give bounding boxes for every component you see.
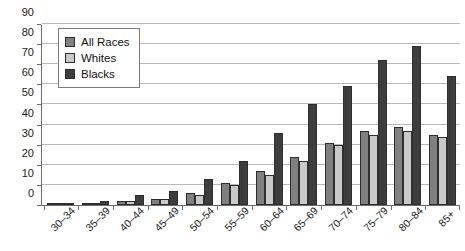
x-label-cell: 35–39 [77,206,112,251]
legend-item: Whites [65,50,130,66]
legend-swatch-icon [65,53,75,63]
bar-blacks [135,195,144,205]
bar-whites [299,161,308,205]
bar-blacks [239,161,248,205]
bar-all-races [47,203,56,205]
bar-whites [369,135,378,205]
gridline-90 [42,23,460,24]
x-label-cell: 40–44 [112,206,147,251]
x-label-cell: 50–54 [182,206,217,251]
y-tick-label-70: 70 [22,46,34,58]
bar-whites [126,201,135,205]
x-axis-tick-label: 75–79 [361,204,390,233]
x-axis-tick-label: 85+ [435,208,456,229]
x-axis-tick-label: 50–54 [187,204,216,233]
y-tick-label-0: 0 [28,187,34,199]
y-tick-label-90: 90 [22,6,34,18]
bar-all-races [325,143,334,205]
bar-all-races [82,203,91,205]
bar-group [391,25,426,205]
x-label-cell: 55–59 [216,206,251,251]
x-label-cell: 85+ [425,206,460,251]
bar-all-races [360,131,369,205]
bar-group [148,25,183,205]
x-label-cell: 45–49 [147,206,182,251]
x-axis-tick-label: 70–74 [326,204,355,233]
legend-label: All Races [81,36,130,48]
bar-blacks [308,104,317,205]
y-tick-label-80: 80 [22,26,34,38]
bar-all-races [256,171,265,205]
x-axis-tick-label: 30–34 [48,204,77,233]
x-axis-labels: 30–3435–3940–4445–4950–5455–5960–6465–69… [43,206,461,251]
bar-blacks [274,133,283,205]
bar-all-races [429,135,438,205]
bar-whites [160,199,169,205]
x-label-cell: 80–84 [390,206,425,251]
bar-group [217,25,252,205]
bar-group [321,25,356,205]
bar-group [286,25,321,205]
bar-group [182,25,217,205]
x-axis-tick-label: 60–64 [257,204,286,233]
bar-blacks [447,76,456,205]
y-tick-label-40: 40 [22,107,34,119]
y-tick-label-10: 10 [22,167,34,179]
legend-label: Whites [81,52,116,64]
legend-item: All Races [65,34,130,50]
bar-blacks [343,86,352,205]
y-tick-label-50: 50 [22,86,34,98]
bar-whites [334,145,343,205]
y-tick-label-20: 20 [22,147,34,159]
bar-whites [56,203,65,205]
bar-all-races [186,193,195,205]
bar-blacks [169,191,178,205]
bar-all-races [151,199,160,205]
x-axis-tick-label: 65–69 [291,204,320,233]
bar-whites [230,185,239,205]
bar-whites [403,131,412,205]
y-tick-label-30: 30 [22,127,34,139]
bar-all-races [117,201,126,205]
bar-whites [265,175,274,205]
bar-blacks [412,46,421,205]
x-axis-tick-label: 35–39 [83,204,112,233]
bar-group [356,25,391,205]
x-label-cell: 70–74 [321,206,356,251]
legend: All RacesWhitesBlacks [58,28,140,88]
bar-group [252,25,287,205]
legend-label: Blacks [81,68,115,80]
bar-all-races [394,127,403,205]
bar-group [425,25,460,205]
x-axis-tick-label: 40–44 [118,204,147,233]
y-tick-label-60: 60 [22,66,34,78]
y-axis: 0102030405060708090 [0,25,41,206]
x-label-cell: 65–69 [286,206,321,251]
x-axis-tick-label: 45–49 [152,204,181,233]
x-label-cell: 60–64 [251,206,286,251]
x-axis-tick-label: 80–84 [396,204,425,233]
bar-all-races [290,157,299,205]
bar-blacks [204,179,213,205]
bar-all-races [221,183,230,205]
x-axis-tick-label: 55–59 [222,204,251,233]
bar-whites [195,195,204,205]
bar-whites [91,203,100,205]
bar-blacks [378,60,387,205]
bar-whites [438,137,447,205]
bar-chart: 0102030405060708090 30–3435–3940–4445–49… [0,0,465,251]
x-label-cell: 75–79 [356,206,391,251]
x-label-cell: 30–34 [43,206,78,251]
legend-swatch-icon [65,69,75,79]
legend-swatch-icon [65,37,75,47]
legend-item: Blacks [65,66,130,82]
